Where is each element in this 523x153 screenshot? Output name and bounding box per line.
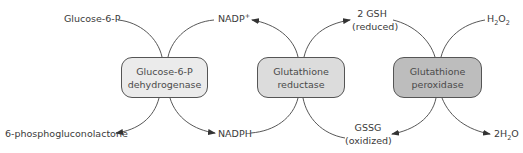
enzyme-label-line1: Glucose-6-P <box>136 65 192 78</box>
label-oxidized-glutathione: GSSG (oxidized) <box>345 121 391 147</box>
label-hydrogen-peroxide: H2O2 <box>487 12 510 25</box>
enzyme-label-line2: dehydrogenase <box>128 78 202 91</box>
enzyme-glutathione-peroxidase: Glutathione peroxidase <box>393 57 482 98</box>
enzyme-label-line2: peroxidase <box>412 78 464 91</box>
arrow-nadph-out-g6pd <box>170 98 215 133</box>
arrow-water-out <box>442 98 490 134</box>
enzyme-glutathione-reductase: Glutathione reductase <box>257 57 345 98</box>
arrow-gsh-out-gr <box>304 20 350 57</box>
arrow-glucose6p-in <box>118 20 162 57</box>
enzyme-label-line1: Glutathione <box>273 65 329 78</box>
label-6-phosphogluconolactone: 6-phosphogluconolactone <box>5 127 128 140</box>
water-prefix: 2H <box>494 128 507 139</box>
arrow-gssg-out-gpx <box>392 98 436 134</box>
arrow-nadp-in-g6pd <box>168 20 214 57</box>
nadp-base: NADP <box>218 13 245 24</box>
gssg-line2: (oxidized) <box>345 134 391 147</box>
water-o: O <box>511 128 518 139</box>
arrow-nadph-in-gr <box>251 98 298 133</box>
arrow-gssg-in-gr <box>303 98 345 138</box>
gsh-line2: (reduced) <box>352 20 392 33</box>
h2o2-sub2: 2 <box>506 19 510 27</box>
label-nadph: NADPH <box>218 127 252 140</box>
h2o2-o: O <box>498 13 505 24</box>
nadp-superscript: + <box>245 12 250 20</box>
gsh-line1: 2 GSH <box>352 7 392 20</box>
label-nadp-plus: NADP+ <box>218 12 250 25</box>
enzyme-label-line1: Glutathione <box>410 65 466 78</box>
label-water: 2H2O <box>494 127 519 140</box>
label-reduced-glutathione: 2 GSH (reduced) <box>352 7 392 33</box>
enzyme-glucose6p-dehydrogenase: Glucose-6-P dehydrogenase <box>121 57 208 98</box>
gssg-line1: GSSG <box>345 121 391 134</box>
arrow-h2o2-in <box>441 20 485 57</box>
arrow-gsh-in-gpx <box>393 20 435 57</box>
enzyme-label-line2: reductase <box>277 78 324 91</box>
arrow-nadp-out-gr <box>252 20 298 57</box>
label-glucose-6-p: Glucose-6-P <box>64 12 120 25</box>
